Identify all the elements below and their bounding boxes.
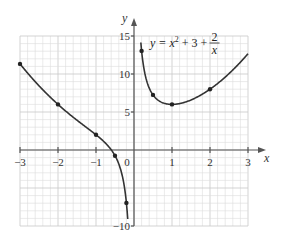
data-point [113,154,117,158]
chart: −3−2−10123−1051015 x y y = x2 + 3 + 2 x [0,0,281,244]
x-tick-label: 1 [169,156,175,168]
x-tick-label: −1 [90,156,102,168]
x-tick-label: −2 [52,156,64,168]
x-tick-label: −3 [14,156,26,168]
data-point [56,102,60,106]
equation-main: y = x2 + 3 + [149,35,208,50]
y-tick-label: 5 [125,106,131,118]
x-tick-label: 3 [245,156,251,168]
data-point [208,87,212,91]
equation-fraction-denominator: x [211,43,218,57]
x-axis-label: x [263,151,270,165]
data-point [170,102,174,106]
x-tick-label: 2 [207,156,213,168]
y-axis-arrow [131,18,137,26]
data-point [18,62,22,66]
data-point [151,93,155,97]
y-tick-label: −10 [113,220,131,232]
y-tick-label: 15 [119,30,131,42]
equation-fraction-numerator: 2 [212,30,218,44]
x-tick-label: 0 [124,156,130,168]
data-point [94,133,98,137]
y-tick-label: 10 [119,68,131,80]
equation-mid: + 3 + [179,36,208,50]
ticks: −3−2−10123−1051015 [14,30,251,232]
y-axis-label: y [121,11,128,25]
data-point [139,49,143,53]
data-point [124,201,128,205]
points [18,49,212,205]
equation-lhs: y = x [149,36,175,50]
